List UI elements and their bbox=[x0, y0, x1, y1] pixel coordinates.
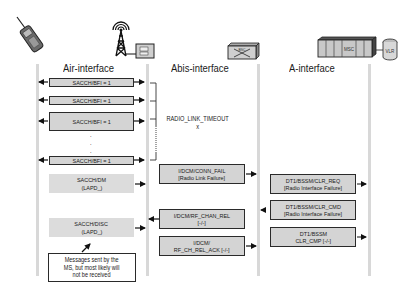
ms-note-box: Messages sent by theMS, but most likely … bbox=[48, 253, 136, 282]
clr-req-box: DT1/BSSM/CLR_REQ[Radio Interface Failure… bbox=[270, 174, 356, 194]
radio-link-timeout-label: RADIO_LINK_TIMEOUT x bbox=[166, 115, 228, 131]
sacch-bfi-box-2: SACCH/BFI = 1 bbox=[49, 96, 134, 105]
rf-ch-rel-ack-box: I/DCM/RF_CH_REL_ACK [-/-] bbox=[159, 236, 245, 256]
clr-cmp-box: DT1/BSSMCLR_CMP [-/-] bbox=[270, 227, 356, 247]
ellipsis-dot-2: . bbox=[90, 139, 92, 146]
clr-cmd-box: DT1/BSSM/CLR_CMD[Radio Interface Failure… bbox=[270, 200, 356, 220]
conn-fail-box: I/DCM/CONN_FAIL[Radio Link Failure] bbox=[159, 164, 245, 184]
ellipsis-dot-1: . bbox=[90, 131, 92, 138]
timeout-bracket bbox=[150, 83, 156, 160]
note-arrow bbox=[82, 244, 90, 252]
ellipsis-dot-3: . bbox=[90, 147, 92, 154]
sacch-bfi-box-3: SACCH/BFI = 1 bbox=[49, 112, 134, 131]
sacch-disc-box: SACCH/DISC(LAPD_) bbox=[49, 218, 134, 237]
sacch-bfi-box-1: SACCH/BFI = 1 bbox=[49, 78, 134, 87]
sacch-dm-box: SACCH/DM(LAPD_) bbox=[49, 174, 134, 193]
sacch-bfi-box-4: SACCH/BFI = 1 bbox=[49, 156, 134, 165]
rf-chan-rel-box: I/DCM/RF_CHAN_REL[-/-] bbox=[159, 209, 245, 229]
